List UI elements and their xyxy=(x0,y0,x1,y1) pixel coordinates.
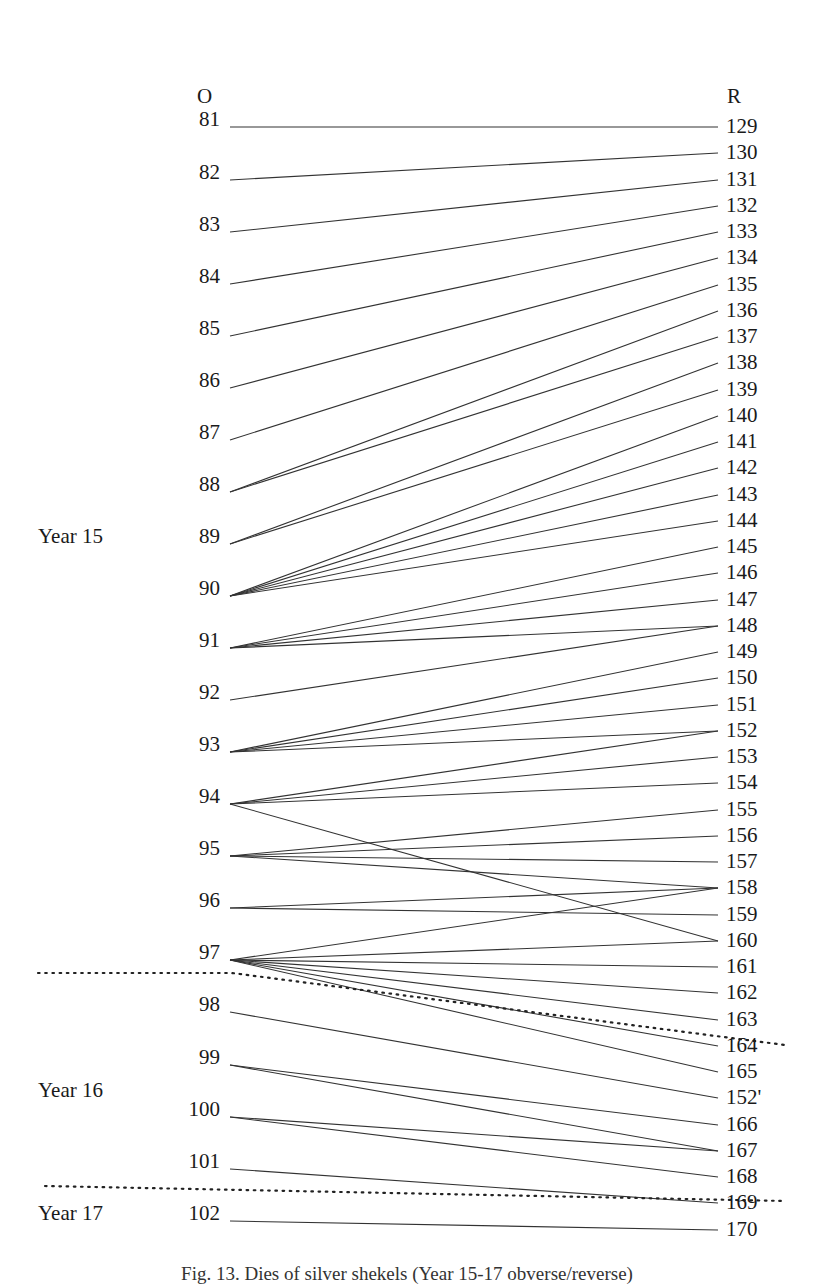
obverse-die-label: 87 xyxy=(160,420,220,444)
reverse-die-label: 160 xyxy=(726,928,758,952)
obverse-die-label: 100 xyxy=(160,1097,220,1121)
link-line-96-159 xyxy=(230,908,718,915)
reverse-die-label: 156 xyxy=(726,823,758,847)
reverse-die-label: 146 xyxy=(726,560,758,584)
obverse-header: O xyxy=(197,84,212,108)
year-label: Year 16 xyxy=(38,1078,103,1102)
link-line-99-166 xyxy=(230,1065,718,1125)
obverse-die-label: 81 xyxy=(160,107,220,131)
link-line-84-132 xyxy=(230,206,718,284)
reverse-die-label: 148 xyxy=(726,613,758,637)
obverse-die-label: 84 xyxy=(160,264,220,288)
reverse-die-label: 157 xyxy=(726,849,758,873)
obverse-die-label: 95 xyxy=(160,836,220,860)
reverse-die-label: 170 xyxy=(726,1217,758,1241)
year-16-17-separator xyxy=(45,1186,785,1201)
obverse-die-label: 98 xyxy=(160,992,220,1016)
link-line-93-151 xyxy=(230,705,718,752)
reverse-die-label: 142 xyxy=(726,455,758,479)
reverse-die-label: 164 xyxy=(726,1033,758,1057)
link-line-97-161 xyxy=(230,960,718,967)
figure-caption: Fig. 13. Dies of silver shekels (Year 15… xyxy=(0,1262,814,1286)
reverse-die-label: 168 xyxy=(726,1164,758,1188)
link-line-97-158 xyxy=(230,888,718,960)
obverse-die-label: 83 xyxy=(160,212,220,236)
link-line-88-137 xyxy=(230,337,718,492)
link-line-90-143 xyxy=(230,495,718,596)
reverse-die-label: 162 xyxy=(726,980,758,1004)
link-line-95-156 xyxy=(230,836,718,856)
reverse-die-label: 155 xyxy=(726,797,758,821)
link-line-86-134 xyxy=(230,258,718,388)
obverse-die-label: 90 xyxy=(160,576,220,600)
reverse-die-label: 167 xyxy=(726,1138,758,1162)
reverse-die-label: 161 xyxy=(726,954,758,978)
reverse-die-label: 143 xyxy=(726,482,758,506)
link-line-93-149 xyxy=(230,652,718,752)
reverse-die-label: 159 xyxy=(726,902,758,926)
reverse-die-label: 151 xyxy=(726,692,758,716)
link-line-100-167 xyxy=(230,1117,718,1151)
link-line-97-164 xyxy=(230,960,718,1046)
reverse-die-label: 129 xyxy=(726,114,758,138)
reverse-die-label: 136 xyxy=(726,298,758,322)
obverse-die-label: 92 xyxy=(160,680,220,704)
link-line-97-163 xyxy=(230,960,718,1020)
reverse-die-label: 139 xyxy=(726,377,758,401)
reverse-die-label: 169 xyxy=(726,1190,758,1214)
reverse-die-label: 133 xyxy=(726,219,758,243)
reverse-die-label: 149 xyxy=(726,639,758,663)
reverse-header: R xyxy=(727,84,741,108)
link-line-94-153 xyxy=(230,757,718,804)
reverse-die-label: 130 xyxy=(726,140,758,164)
link-line-99-167 xyxy=(230,1065,718,1151)
link-line-87-135 xyxy=(230,285,718,440)
reverse-die-label: 135 xyxy=(726,272,758,296)
obverse-die-label: 88 xyxy=(160,472,220,496)
obverse-die-label: 101 xyxy=(160,1149,220,1173)
link-line-85-133 xyxy=(230,232,718,336)
reverse-die-label: 166 xyxy=(726,1112,758,1136)
reverse-die-label: 134 xyxy=(726,245,758,269)
link-line-95-155 xyxy=(230,810,718,856)
reverse-die-label: 147 xyxy=(726,587,758,611)
reverse-die-label: 138 xyxy=(726,350,758,374)
obverse-die-label: 82 xyxy=(160,160,220,184)
link-line-91-147 xyxy=(230,600,718,648)
link-line-90-140 xyxy=(230,416,718,596)
year-15-16-separator xyxy=(38,973,785,1045)
link-line-89-138 xyxy=(230,363,718,544)
obverse-die-label: 102 xyxy=(160,1201,220,1225)
obverse-die-label: 89 xyxy=(160,524,220,548)
reverse-die-label: 158 xyxy=(726,875,758,899)
reverse-die-label: 144 xyxy=(726,508,758,532)
link-line-102-170 xyxy=(230,1221,718,1230)
obverse-die-label: 97 xyxy=(160,940,220,964)
obverse-die-label: 93 xyxy=(160,732,220,756)
reverse-die-label: 163 xyxy=(726,1007,758,1031)
link-line-89-139 xyxy=(230,390,718,544)
link-line-97-160 xyxy=(230,941,718,960)
obverse-die-label: 94 xyxy=(160,784,220,808)
link-line-83-131 xyxy=(230,180,718,232)
reverse-die-label: 152' xyxy=(726,1085,761,1109)
obverse-die-label: 99 xyxy=(160,1045,220,1069)
reverse-die-label: 145 xyxy=(726,534,758,558)
reverse-die-label: 154 xyxy=(726,770,758,794)
reverse-die-label: 153 xyxy=(726,744,758,768)
reverse-die-label: 150 xyxy=(726,665,758,689)
reverse-die-label: 132 xyxy=(726,193,758,217)
link-line-91-145 xyxy=(230,547,718,648)
reverse-die-label: 140 xyxy=(726,403,758,427)
obverse-die-label: 86 xyxy=(160,368,220,392)
link-line-96-158 xyxy=(230,888,718,908)
obverse-die-label: 96 xyxy=(160,888,220,912)
year-label: Year 17 xyxy=(38,1201,103,1225)
year-label: Year 15 xyxy=(38,524,103,548)
reverse-die-label: 131 xyxy=(726,167,758,191)
reverse-die-label: 141 xyxy=(726,429,758,453)
link-line-100-168 xyxy=(230,1117,718,1177)
reverse-die-label: 137 xyxy=(726,324,758,348)
